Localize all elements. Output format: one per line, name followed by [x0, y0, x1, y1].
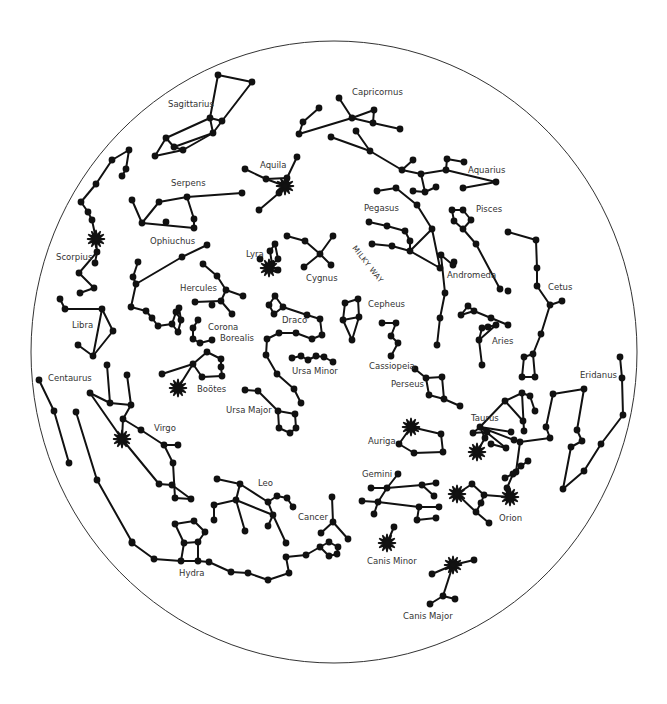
- star-icon: [384, 223, 391, 230]
- star-icon: [276, 425, 283, 432]
- star-icon: [532, 408, 539, 415]
- star-icon: [294, 154, 301, 161]
- label-sagittarius: Sagittarius: [168, 99, 214, 109]
- star-icon: [219, 118, 226, 125]
- star-icon: [264, 336, 271, 343]
- star-icon: [156, 481, 163, 488]
- star-icon: [267, 248, 274, 255]
- star-icon: [433, 515, 440, 522]
- star-icon: [228, 569, 235, 576]
- star-icon: [126, 147, 133, 154]
- star-icon: [433, 480, 440, 487]
- star-icon: [130, 274, 137, 281]
- label-cygnus: Cygnus: [306, 273, 338, 283]
- star-icon: [393, 185, 400, 192]
- label-scorpius: Scorpius: [56, 252, 93, 262]
- star-icon: [579, 438, 586, 445]
- star-icon: [155, 323, 162, 330]
- star-icon: [497, 286, 504, 293]
- star-icon: [270, 512, 277, 519]
- star-icon: [452, 596, 459, 603]
- star-icon: [214, 476, 221, 483]
- star-icon: [271, 311, 278, 318]
- star-icon: [218, 364, 225, 371]
- star-icon: [200, 261, 207, 268]
- star-icon: [493, 179, 500, 186]
- star-icon: [581, 386, 588, 393]
- label-pisces: Pisces: [476, 204, 503, 214]
- star-icon: [149, 315, 156, 322]
- horizon-circle: [31, 41, 637, 663]
- star-icon: [326, 553, 333, 560]
- star-icon: [263, 176, 270, 183]
- star-icon: [440, 593, 447, 600]
- bright-star-icon: [169, 379, 187, 397]
- star-icon: [156, 199, 163, 206]
- star-icon: [366, 219, 373, 226]
- star-icon: [192, 299, 199, 306]
- star-icon: [375, 499, 382, 506]
- star-icon: [319, 332, 326, 339]
- star-icon: [92, 260, 99, 267]
- star-icon: [94, 249, 101, 256]
- star-icon: [530, 351, 537, 358]
- star-icon: [538, 331, 545, 338]
- star-icon: [229, 311, 236, 318]
- star-icon: [175, 442, 182, 449]
- star-icon: [581, 468, 588, 475]
- star-icon: [436, 504, 443, 511]
- star-icon: [211, 502, 218, 509]
- star-icon: [280, 304, 287, 311]
- star-icon: [371, 511, 378, 518]
- label-corona-borealis: Corona: [208, 322, 238, 332]
- star-icon: [188, 496, 195, 503]
- star-icon: [190, 325, 197, 332]
- star-icon: [504, 485, 511, 492]
- star-icon: [184, 194, 191, 201]
- star-icon: [57, 296, 64, 303]
- bright-star-icon: [468, 443, 486, 461]
- star-icon: [245, 570, 252, 577]
- label-libra: Libra: [72, 320, 93, 330]
- constellation-scorpius: [79, 150, 129, 293]
- star-icon: [207, 115, 214, 122]
- star-icon: [397, 126, 404, 133]
- star-icon: [393, 320, 400, 327]
- star-icon: [518, 463, 525, 470]
- star-icon: [135, 259, 142, 266]
- label-aquila: Aquila: [260, 160, 286, 170]
- star-icon: [395, 471, 402, 478]
- star-icon: [511, 437, 518, 444]
- label-auriga: Auriga: [368, 436, 396, 446]
- star-icon: [309, 336, 316, 343]
- bright-star-icon: [87, 230, 105, 248]
- star-icon: [418, 171, 425, 178]
- star-icon: [138, 427, 145, 434]
- star-icon: [206, 559, 213, 566]
- star-icon: [249, 79, 256, 86]
- star-icon: [215, 72, 222, 79]
- star-icon: [485, 324, 492, 331]
- star-icon: [438, 431, 445, 438]
- star-icon: [503, 445, 510, 452]
- star-icon: [391, 524, 398, 531]
- star-icon: [329, 494, 336, 501]
- star-icon: [191, 216, 198, 223]
- star-icon: [170, 460, 177, 467]
- star-icon: [396, 441, 403, 448]
- constellation-cygnus: [287, 236, 333, 267]
- star-icon: [471, 557, 478, 564]
- star-icon: [411, 450, 418, 457]
- star-icon: [139, 220, 146, 227]
- star-icon: [287, 430, 294, 437]
- star-icon: [519, 390, 526, 397]
- star-icon: [169, 482, 176, 489]
- star-icon: [239, 190, 246, 197]
- star-icon: [340, 317, 347, 324]
- star-icon: [291, 386, 298, 393]
- star-icon: [242, 166, 249, 173]
- star-icon: [355, 296, 362, 303]
- star-icon: [369, 241, 376, 248]
- star-icon: [233, 497, 240, 504]
- star-icon: [443, 167, 450, 174]
